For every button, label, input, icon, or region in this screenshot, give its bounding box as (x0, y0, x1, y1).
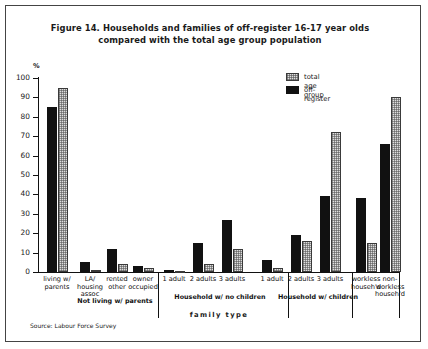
category-label: 3 adults (216, 276, 248, 284)
y-axis-tick-label: 0 (8, 268, 30, 276)
group-label: Household w/ children (258, 293, 378, 301)
bar-off-register (222, 220, 232, 272)
bar-total-age-group (118, 264, 128, 272)
y-axis-tick-label: 80 (8, 113, 30, 121)
bar-off-register (356, 198, 366, 272)
bar-off-register (320, 196, 330, 272)
bar-total-age-group (391, 97, 401, 272)
y-axis-tick-label: 30 (8, 210, 30, 218)
x-axis-title: family type (38, 311, 400, 319)
bar-off-register (80, 262, 90, 272)
category-label: 1 adult (159, 276, 189, 284)
category-label: non-workless househ'd (373, 276, 407, 299)
bar-off-register (262, 260, 272, 272)
y-axis-tick-label: 20 (8, 229, 30, 237)
y-axis-tick-mark (33, 233, 38, 234)
y-axis-tick-mark (33, 156, 38, 157)
bar-off-register (193, 243, 203, 272)
category-label: owner occupied (126, 276, 160, 291)
bar-total-age-group (367, 243, 377, 272)
plot-area: % 0102030405060708090100 living w/ paren… (0, 0, 428, 349)
y-axis-tick-mark (33, 136, 38, 137)
category-label: 1 adult (257, 276, 287, 284)
y-axis-tick-label: 50 (8, 171, 30, 179)
y-axis-tick-label: 90 (8, 93, 30, 101)
bar-off-register (380, 144, 390, 272)
y-axis-tick-label: 10 (8, 249, 30, 257)
bar-off-register (107, 249, 117, 272)
y-axis-tick-mark (33, 78, 38, 79)
bar-total-age-group (58, 88, 68, 272)
y-axis-tick-label: 60 (8, 152, 30, 160)
y-axis-tick-mark (33, 214, 38, 215)
y-axis-unit-label: % (33, 62, 40, 70)
category-label: 3 adults (314, 276, 346, 284)
y-axis-tick-label: 40 (8, 190, 30, 198)
bar-total-age-group (331, 132, 341, 272)
y-axis-tick-label: 70 (8, 132, 30, 140)
y-axis-tick-mark (33, 194, 38, 195)
bar-off-register (47, 107, 57, 272)
bar-off-register (291, 235, 301, 272)
bar-total-age-group (233, 249, 243, 272)
bar-total-age-group (302, 241, 312, 272)
y-axis-tick-mark (33, 175, 38, 176)
source-note: Source: Labour Force Survey (30, 322, 116, 329)
group-label: Not living w/ parents (70, 297, 160, 305)
category-label: living w/ parents (40, 276, 74, 291)
bar-total-age-group (204, 264, 214, 272)
category-label: 2 adults (285, 276, 317, 284)
y-axis-tick-mark (33, 253, 38, 254)
y-axis-line (38, 77, 39, 273)
y-axis-tick-label: 100 (8, 74, 30, 82)
category-label: 2 adults (187, 276, 219, 284)
y-axis-tick-mark (33, 97, 38, 98)
y-axis-tick-mark (33, 117, 38, 118)
